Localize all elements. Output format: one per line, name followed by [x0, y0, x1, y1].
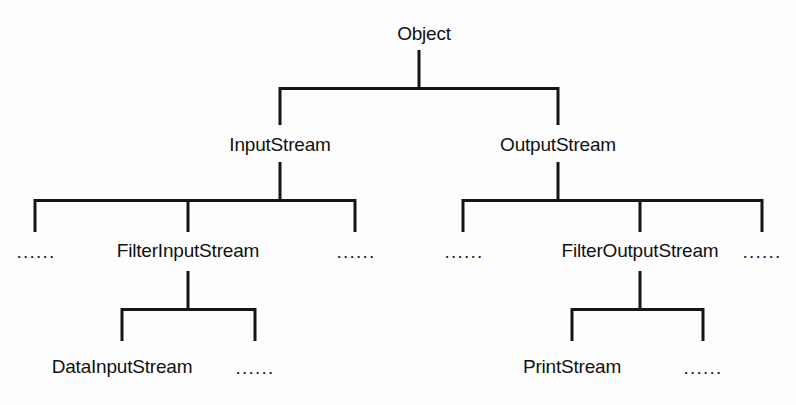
node-print-stream: PrintStream [523, 355, 621, 379]
node-object: Object [397, 22, 451, 46]
edge-filteroutputstream-bar [571, 308, 704, 311]
edge-outputstream-stem [557, 162, 560, 200]
node-ellipsis-print: ...... [684, 356, 723, 380]
node-ellipsis-input-left: ...... [17, 240, 56, 264]
node-ellipsis-output-right: ...... [743, 240, 782, 264]
edge-object-stem [418, 50, 421, 88]
edge-inputstream-stem [279, 162, 282, 200]
node-ellipsis-input-right: ...... [337, 240, 376, 264]
edge-filterinputstream-to-ellipsis [254, 308, 257, 341]
node-ellipsis-output-left: ...... [445, 240, 484, 264]
edge-outputstream-bar [462, 199, 763, 202]
edge-outputstream-to-filteroutputstream [639, 199, 642, 232]
node-data-input-stream: DataInputStream [52, 355, 193, 379]
node-input-stream: InputStream [229, 133, 330, 157]
node-ellipsis-data-input: ...... [236, 356, 275, 380]
node-filter-output-stream: FilterOutputStream [562, 239, 719, 263]
edge-object-to-inputstream [279, 87, 282, 125]
node-output-stream: OutputStream [500, 133, 616, 157]
edge-inputstream-to-ellipsis-right [354, 199, 357, 232]
edge-filterinputstream-bar [121, 308, 256, 311]
edge-outputstream-to-ellipsis-left [462, 199, 465, 232]
edge-filterinputstream-stem [187, 271, 190, 309]
edge-outputstream-to-ellipsis-right [761, 199, 764, 232]
edge-object-bar [279, 87, 559, 90]
edge-filteroutputstream-to-printstream [571, 308, 574, 341]
edge-filteroutputstream-to-ellipsis [702, 308, 705, 341]
edge-filterinputstream-to-datainputstream [121, 308, 124, 341]
scan-noise-overlay [0, 0, 796, 405]
class-hierarchy-diagram: Object InputStream OutputStream ...... F… [0, 0, 796, 405]
edge-filteroutputstream-stem [639, 271, 642, 309]
node-filter-input-stream: FilterInputStream [117, 239, 259, 263]
edge-inputstream-bar [34, 199, 356, 202]
edge-object-to-outputstream [557, 87, 560, 125]
edge-inputstream-to-filterinputstream [187, 199, 190, 232]
edge-inputstream-to-ellipsis-left [34, 199, 37, 232]
